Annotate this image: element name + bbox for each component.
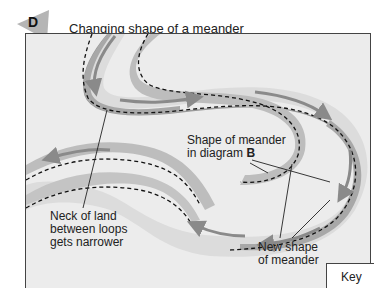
old-shape-label-prefix: in diagram [187, 146, 246, 160]
key-box: Key [326, 263, 374, 288]
diagram-ref-b: B [246, 146, 255, 160]
new-shape-label-line-2: of meander [258, 254, 319, 267]
new-shape-label: New shape of meander [258, 241, 319, 267]
neck-label-line-3: gets narrower [50, 236, 127, 249]
neck-label: Neck of land between loops gets narrower [50, 210, 127, 249]
key-label: Key [341, 270, 362, 284]
old-shape-label-line-2: in diagram B [187, 147, 286, 160]
old-shape-label: Shape of meander in diagram B [187, 134, 286, 160]
